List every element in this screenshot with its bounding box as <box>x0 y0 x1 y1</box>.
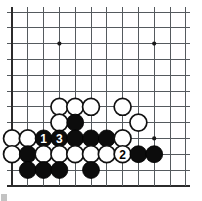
stone-body <box>19 130 36 147</box>
stone-white[interactable] <box>35 146 52 163</box>
stone-white-move-2[interactable]: 2 <box>114 146 131 163</box>
page-corner-artifact <box>1 194 7 201</box>
stone-body <box>83 162 100 179</box>
stone-body <box>19 146 36 163</box>
stone-white[interactable] <box>83 98 100 115</box>
stone-white[interactable] <box>114 130 131 147</box>
stone-black[interactable] <box>19 146 36 163</box>
stone-body <box>51 114 68 131</box>
stone-white[interactable] <box>83 146 100 163</box>
stone-body <box>67 146 84 163</box>
stone-body <box>83 146 100 163</box>
stone-black[interactable] <box>19 162 36 179</box>
stone-body <box>114 98 131 115</box>
star-point <box>152 42 156 46</box>
stone-black[interactable] <box>83 130 100 147</box>
stone-white[interactable] <box>98 146 115 163</box>
stone-body <box>130 114 147 131</box>
stone-black[interactable] <box>98 130 115 147</box>
stone-white[interactable] <box>4 146 21 163</box>
stone-black[interactable] <box>146 146 163 163</box>
stone-body <box>51 162 68 179</box>
stone-body <box>19 162 36 179</box>
stone-body <box>114 130 131 147</box>
stone-move-number: 3 <box>56 132 63 146</box>
stone-body <box>83 130 100 147</box>
stone-body <box>67 98 84 115</box>
stone-body <box>146 146 163 163</box>
stone-white[interactable] <box>130 114 147 131</box>
stone-body <box>35 162 52 179</box>
stone-black[interactable] <box>130 146 147 163</box>
star-point <box>57 42 61 46</box>
stone-body <box>67 114 84 131</box>
stone-black[interactable] <box>83 162 100 179</box>
star-point <box>152 136 156 140</box>
stone-body <box>98 146 115 163</box>
stone-body <box>98 130 115 147</box>
go-board-canvas[interactable]: 132 <box>0 0 202 201</box>
stone-black[interactable] <box>67 130 84 147</box>
stone-white[interactable] <box>67 98 84 115</box>
stone-white[interactable] <box>51 146 68 163</box>
stone-body <box>35 146 52 163</box>
stone-body <box>4 130 21 147</box>
stone-body <box>130 146 147 163</box>
stone-white[interactable] <box>19 130 36 147</box>
stone-body <box>4 146 21 163</box>
stone-move-number: 2 <box>119 148 126 162</box>
stone-white[interactable] <box>4 130 21 147</box>
stone-black[interactable] <box>51 162 68 179</box>
stone-white[interactable] <box>114 98 131 115</box>
stone-white[interactable] <box>51 114 68 131</box>
go-diagram-screenshot: 132 <box>0 0 202 201</box>
stone-move-number: 1 <box>40 132 47 146</box>
stone-white[interactable] <box>67 146 84 163</box>
stone-black[interactable] <box>35 162 52 179</box>
go-board[interactable]: 132 <box>0 0 202 201</box>
stone-white[interactable] <box>51 98 68 115</box>
stone-black-move-3[interactable]: 3 <box>51 130 68 147</box>
stone-body <box>67 130 84 147</box>
stone-body <box>83 98 100 115</box>
stone-body <box>51 146 68 163</box>
stone-black[interactable] <box>67 114 84 131</box>
stone-body <box>51 98 68 115</box>
stone-black-move-1[interactable]: 1 <box>35 130 52 147</box>
